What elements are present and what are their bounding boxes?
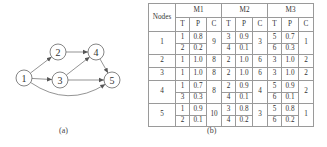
- task-cell: 1: [176, 81, 190, 93]
- subheader-m2-c: C: [253, 18, 268, 32]
- task-cell: 2: [222, 55, 236, 68]
- cost-cell: 8: [207, 81, 222, 104]
- task-cell: 6: [268, 92, 282, 104]
- task-cell: 2: [176, 43, 190, 55]
- cost-cell: 6: [253, 68, 268, 81]
- task-cell: 5: [268, 81, 282, 93]
- group-header-m3: M3: [268, 4, 314, 18]
- probability-cell: 0.3: [190, 92, 207, 104]
- cost-cell: 1: [299, 32, 314, 55]
- task-cell: 2: [176, 115, 190, 127]
- subheader-m1-c: C: [207, 18, 222, 32]
- node-cell-2: 2: [149, 55, 176, 68]
- probability-cell: 0.8: [282, 104, 299, 116]
- subheader-m1-p: P: [190, 18, 207, 32]
- node-cell-1: 1: [149, 32, 176, 55]
- node-cell-3: 3: [149, 68, 176, 81]
- probability-cell: 0.2: [282, 115, 299, 127]
- probability-cell: 0.8: [236, 104, 253, 116]
- probability-cell: 0.9: [190, 104, 207, 116]
- edge-3-4: [66, 57, 89, 75]
- task-cell: 1: [176, 104, 190, 116]
- dag-figure: 12345: [0, 0, 140, 147]
- node-cell-4: 4: [149, 81, 176, 104]
- edge-4-5: [100, 59, 108, 73]
- cost-cell: 3: [253, 104, 268, 127]
- task-cell: 4: [222, 92, 236, 104]
- probability-cell: 1.0: [236, 55, 253, 68]
- node-label-4: 4: [94, 47, 99, 58]
- probability-cell: 1.0: [236, 68, 253, 81]
- cost-cell: 3: [253, 32, 268, 55]
- nodes-header: Nodes: [149, 4, 176, 32]
- subheader-m1-t: T: [176, 18, 190, 32]
- node-label-5: 5: [110, 75, 115, 86]
- probability-cell: 0.7: [282, 32, 299, 44]
- edge-1-2: [30, 57, 51, 73]
- task-cell: 1: [176, 55, 190, 68]
- figure-b-caption: (b): [207, 126, 216, 135]
- node-label-2: 2: [56, 47, 61, 58]
- table-row: 311.0821.0631.02: [149, 68, 314, 81]
- figure-a-caption: (a): [59, 126, 68, 135]
- node-label-1: 1: [22, 73, 27, 84]
- task-cell: 5: [268, 104, 282, 116]
- task-cell: 6: [268, 115, 282, 127]
- node-task-table: NodesM1M2M3TPCTPCTPC110.8930.9350.7120.2…: [148, 3, 314, 127]
- node-label-3: 3: [58, 75, 63, 86]
- task-cell: 3: [222, 32, 236, 44]
- probability-cell: 0.3: [282, 43, 299, 55]
- task-cell: 2: [222, 68, 236, 81]
- header-row: NodesM1M2M3: [149, 4, 314, 18]
- probability-cell: 1.0: [190, 68, 207, 81]
- cost-cell: 2: [299, 68, 314, 81]
- subheader-m2-p: P: [236, 18, 253, 32]
- subheader-m3-c: C: [299, 18, 314, 32]
- table-row: 110.8930.9350.71: [149, 32, 314, 44]
- probability-cell: 0.2: [236, 115, 253, 127]
- node-cell-5: 5: [149, 104, 176, 127]
- task-cell: 1: [176, 32, 190, 44]
- cost-cell: 6: [253, 55, 268, 68]
- task-cell: 6: [268, 43, 282, 55]
- table-row: 410.7820.9450.92: [149, 81, 314, 93]
- probability-cell: 0.1: [236, 92, 253, 104]
- probability-cell: 0.1: [236, 43, 253, 55]
- edge-1-3: [32, 78, 52, 79]
- probability-cell: 1.0: [282, 68, 299, 81]
- probability-cell: 1.0: [282, 55, 299, 68]
- cost-cell: 4: [253, 81, 268, 104]
- cost-cell: 1: [299, 104, 314, 127]
- subheader-m2-t: T: [222, 18, 236, 32]
- probability-cell: 1.0: [190, 55, 207, 68]
- task-cell: 3: [176, 92, 190, 104]
- task-cell: 1: [176, 68, 190, 81]
- probability-cell: 0.7: [190, 81, 207, 93]
- table-row: 510.91030.8350.81: [149, 104, 314, 116]
- probability-cell: 0.1: [282, 92, 299, 104]
- task-cell: 3: [268, 68, 282, 81]
- task-cell: 2: [222, 81, 236, 93]
- task-cell: 4: [222, 115, 236, 127]
- cost-cell: 2: [299, 55, 314, 68]
- probability-cell: 0.9: [236, 32, 253, 44]
- group-header-m2: M2: [222, 4, 268, 18]
- subheader-m3-t: T: [268, 18, 282, 32]
- cost-cell: 8: [207, 55, 222, 68]
- task-cell: 3: [268, 55, 282, 68]
- cost-cell: 10: [207, 104, 222, 127]
- probability-cell: 0.2: [190, 43, 207, 55]
- cost-cell: 8: [207, 68, 222, 81]
- table-row: 211.0821.0631.02: [149, 55, 314, 68]
- task-cell: 5: [268, 32, 282, 44]
- group-header-m1: M1: [176, 4, 222, 18]
- probability-cell: 0.9: [282, 81, 299, 93]
- probability-cell: 0.9: [236, 81, 253, 93]
- probability-cell: 0.8: [190, 32, 207, 44]
- cost-cell: 2: [299, 81, 314, 104]
- cost-cell: 9: [207, 32, 222, 55]
- edge-1-5: [31, 83, 106, 96]
- subheader-m3-p: P: [282, 18, 299, 32]
- probability-cell: 0.1: [190, 115, 207, 127]
- task-cell: 3: [222, 104, 236, 116]
